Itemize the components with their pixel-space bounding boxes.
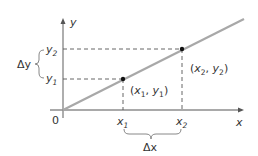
origin-label: 0 [52, 114, 59, 127]
point-1 [121, 77, 125, 81]
y-axis-label: y [69, 16, 77, 29]
delta-y-label: Δy [17, 58, 32, 71]
delta-x-label: Δx [143, 141, 158, 154]
point-1-label: (x1, y1) [130, 84, 168, 99]
x-axis-arrow-icon [238, 108, 244, 113]
point-2 [180, 47, 184, 51]
x2-label: x2 [175, 115, 188, 130]
x1-label: x1 [116, 115, 128, 130]
y-axis-arrow-icon [61, 18, 66, 24]
delta-y-brace-icon [35, 50, 44, 78]
delta-x-brace-icon [124, 129, 181, 139]
x-axis-label: x [235, 116, 243, 129]
y1-label: y1 [45, 72, 57, 87]
point-2-label: (x2, y2) [190, 62, 228, 77]
slope-diagram: y x 0 y2 y1 x1 x2 (x1, y1) (x2, y2) Δy Δ… [0, 0, 258, 156]
y2-label: y2 [45, 43, 58, 58]
